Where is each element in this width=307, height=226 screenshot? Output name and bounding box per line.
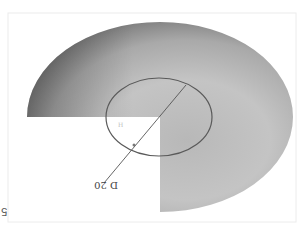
disc-shading xyxy=(27,22,293,212)
faint-mark: H xyxy=(118,121,123,128)
cad-drawing: H D 20 xyxy=(0,0,307,226)
dimension-label: D 20 xyxy=(94,180,118,191)
corner-number: 5 xyxy=(1,206,7,218)
dimension-arrow-mark xyxy=(133,144,136,147)
